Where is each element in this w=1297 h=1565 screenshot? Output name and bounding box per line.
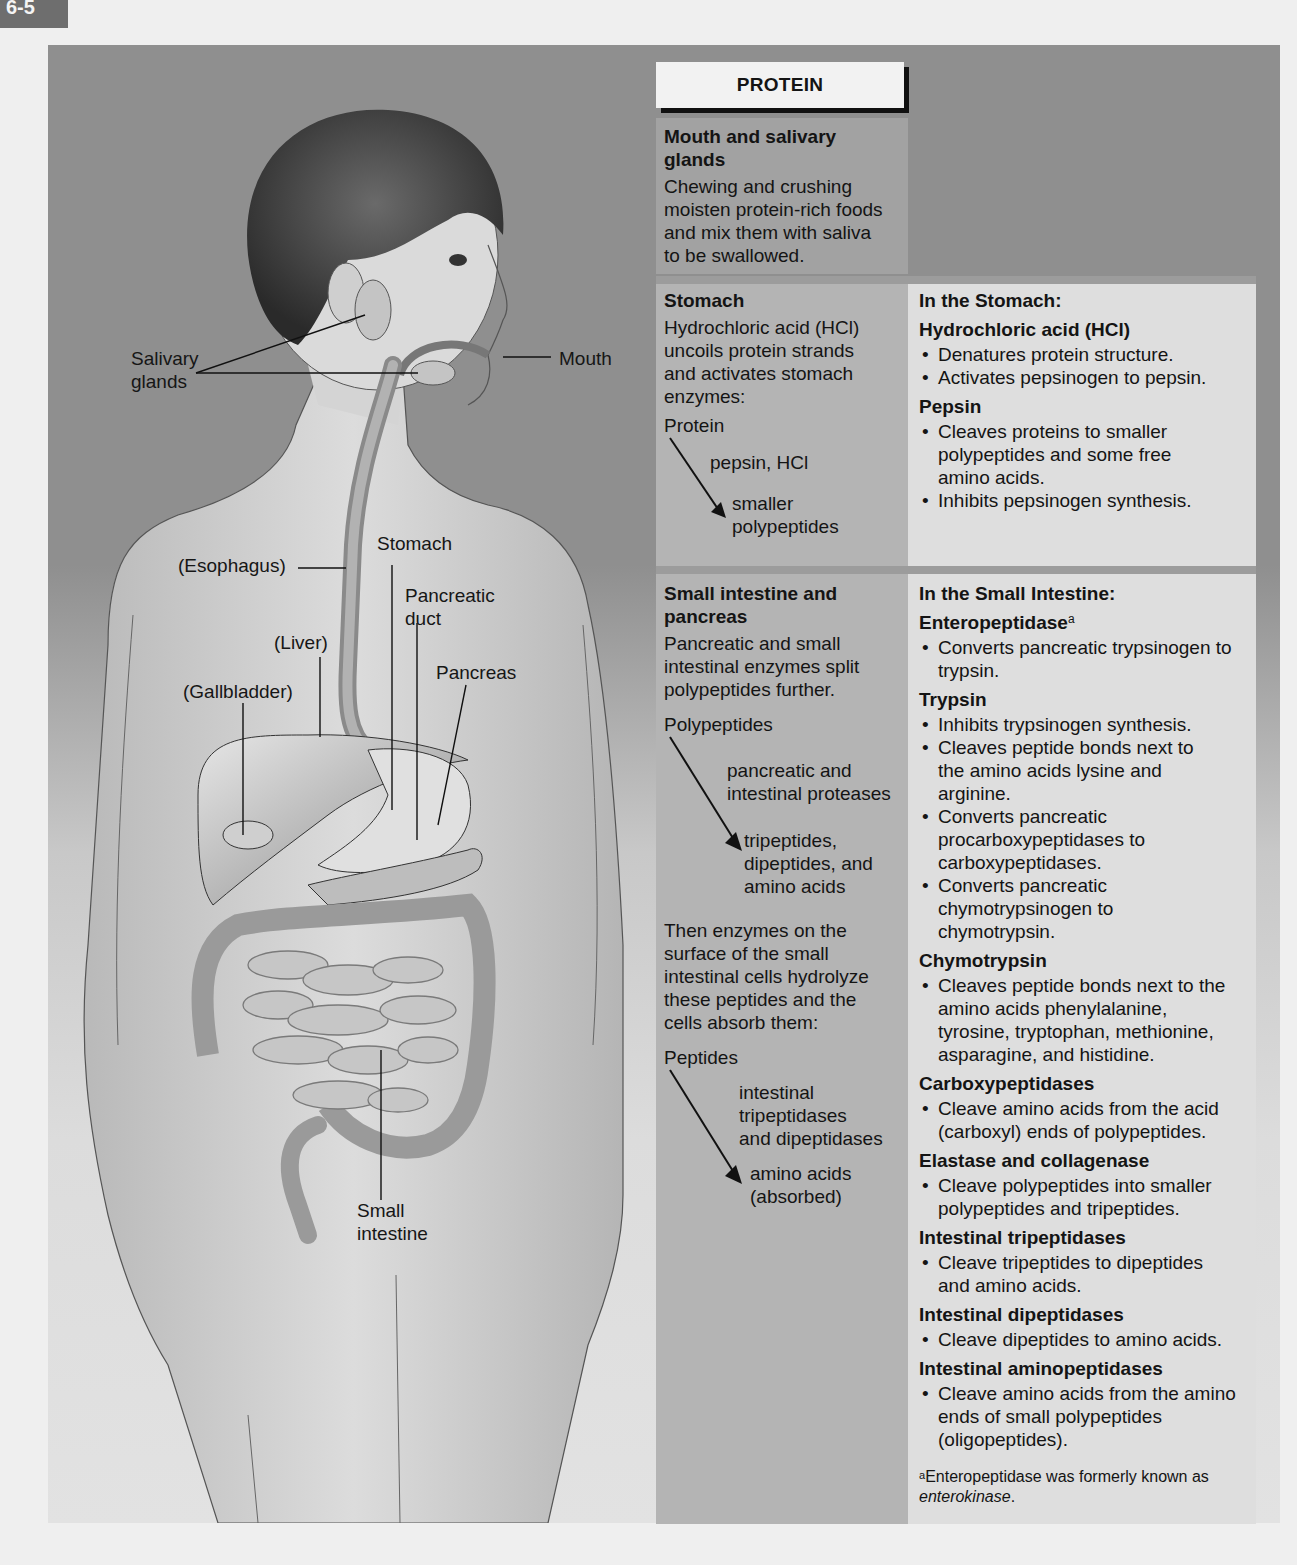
enzyme-action: Activates pepsinogen to pepsin. — [919, 366, 1248, 389]
arrow-icon — [664, 1046, 754, 1246]
label-mouth: Mouth — [559, 347, 612, 370]
enzyme-name: Intestinal aminopeptidases — [919, 1357, 1248, 1380]
enzyme-action: Cleave tripeptides to dipeptides and ami… — [919, 1251, 1239, 1297]
enzyme-enteropeptidase: Enteropeptidasea Converts pancreatic try… — [919, 611, 1248, 682]
footnote-marker: a — [1068, 612, 1075, 626]
title-line: Small intestine and — [664, 582, 900, 605]
gallbladder — [223, 821, 273, 849]
figure-number-tab: 6-5 — [0, 0, 68, 28]
enzyme-name: Intestinal tripeptidases — [919, 1226, 1248, 1249]
enzyme-action: Cleaves peptide bonds next to the amino … — [919, 736, 1219, 805]
flow-product: polypeptides — [732, 515, 900, 538]
cell-mouth: Mouth and salivary glands Chewing and cr… — [656, 118, 908, 274]
flow-product: (absorbed) — [750, 1185, 900, 1208]
arrow-icon — [664, 713, 754, 913]
enzyme-name: Carboxypeptidases — [919, 1072, 1248, 1095]
title-line: Mouth and salivary — [664, 125, 900, 148]
section-title: In the Small Intestine: — [919, 582, 1248, 605]
cell-title: Small intestine and pancreas — [664, 582, 900, 628]
cell-text: Chewing and crushing moisten protein-ric… — [664, 175, 892, 267]
label-pancreatic-duct: Pancreatic duct — [405, 584, 495, 630]
enzyme-intestinal-tripeptidases: Intestinal tripeptidases Cleave tripepti… — [919, 1226, 1248, 1297]
table-header-protein: PROTEIN — [656, 62, 904, 108]
human-digestive-illustration — [48, 45, 658, 1523]
enzyme-chymotrypsin: Chymotrypsin Cleaves peptide bonds next … — [919, 949, 1248, 1066]
label-text: duct — [405, 607, 495, 630]
label-text: intestine — [357, 1222, 428, 1245]
enzyme-elastase-collagenase: Elastase and collagenase Cleave polypept… — [919, 1149, 1248, 1220]
enzyme-action: Converts pancreatic procarboxypeptidases… — [919, 805, 1219, 874]
enzyme-action: Cleave amino acids from the amino ends o… — [919, 1382, 1239, 1451]
label-gallbladder: (Gallbladder) — [183, 680, 293, 703]
cell-title: Mouth and salivary glands — [664, 125, 900, 171]
enzyme-name: Intestinal dipeptidases — [919, 1303, 1248, 1326]
flow-enzyme: and dipeptidases — [739, 1127, 900, 1150]
cell-text: Pancreatic and small intestinal enzymes … — [664, 632, 874, 701]
label-text: Pancreatic — [405, 584, 495, 607]
enzyme-action: Denatures protein structure. — [919, 343, 1248, 366]
enzyme-action: Converts pancreatic chymotrypsinogen to … — [919, 874, 1219, 943]
cell-text: Then enzymes on the surface of the small… — [664, 919, 894, 1034]
enzyme-trypsin: Trypsin Inhibits trypsinogen synthesis. … — [919, 688, 1248, 943]
cell-stomach-description: Stomach Hydrochloric acid (HCl) uncoils … — [656, 284, 908, 566]
label-pancreas: Pancreas — [436, 661, 516, 684]
cell-title: Stomach — [664, 289, 900, 312]
reaction-flow-peptides: Peptides intestinal tripeptidases and di… — [664, 1046, 900, 1246]
flow-product: amino acids — [750, 1162, 900, 1185]
enzyme-action: Cleave dipeptides to amino acids. — [919, 1328, 1248, 1351]
flow-product: smaller — [732, 492, 900, 515]
title-line: glands — [664, 148, 900, 171]
parotid-gland — [355, 280, 391, 340]
enzyme-carboxypeptidases: Carboxypeptidases Cleave amino acids fro… — [919, 1072, 1248, 1143]
flow-enzyme: intestinal — [739, 1081, 900, 1104]
enzyme-name: Elastase and collagenase — [919, 1149, 1248, 1172]
label-stomach: Stomach — [377, 532, 452, 555]
enzyme-name: Enteropeptidasea — [919, 611, 1248, 634]
cell-stomach-enzymes: In the Stomach: Hydrochloric acid (HCl) … — [908, 284, 1256, 566]
enzyme-hcl: Hydrochloric acid (HCl) Denatures protei… — [919, 318, 1248, 389]
footnote-italic: enterokinase — [919, 1488, 1011, 1505]
label-esophagus: (Esophagus) — [178, 554, 286, 577]
label-liver: (Liver) — [274, 631, 328, 654]
header-text: PROTEIN — [737, 74, 824, 96]
enzyme-pepsin: Pepsin Cleaves proteins to smaller polyp… — [919, 395, 1248, 512]
cell-small-intestine-enzymes: In the Small Intestine: Enteropeptidasea… — [908, 574, 1256, 1524]
label-small-intestine: Small intestine — [357, 1199, 428, 1245]
figure-number: 6-5 — [6, 0, 35, 18]
enzyme-action: Converts pancreatic trypsinogen to tryps… — [919, 636, 1239, 682]
enzyme-intestinal-aminopeptidases: Intestinal aminopeptidases Cleave amino … — [919, 1357, 1248, 1451]
enzyme-name: Chymotrypsin — [919, 949, 1248, 972]
enzyme-name: Hydrochloric acid (HCl) — [919, 318, 1248, 341]
enzyme-name: Trypsin — [919, 688, 1248, 711]
flow-product: dipeptides, and — [744, 852, 900, 875]
enzyme-action: Cleave amino acids from the acid (carbox… — [919, 1097, 1244, 1143]
enzyme-action: Inhibits trypsinogen synthesis. — [919, 713, 1219, 736]
enzyme-intestinal-dipeptidases: Intestinal dipeptidases Cleave dipeptide… — [919, 1303, 1248, 1351]
footnote-end: . — [1011, 1488, 1015, 1505]
label-text: glands — [131, 370, 199, 393]
footnote-text: Enteropeptidase was formerly known as — [925, 1468, 1209, 1485]
enzyme-name: Pepsin — [919, 395, 1248, 418]
cell-small-intestine-description: Small intestine and pancreas Pancreatic … — [656, 574, 908, 1524]
label-text: Salivary — [131, 347, 199, 370]
flow-product: amino acids — [744, 875, 900, 898]
enzyme-action: Cleaves proteins to smaller polypeptides… — [919, 420, 1209, 489]
row-separator — [656, 276, 1256, 284]
label-text: Small — [357, 1199, 428, 1222]
enzyme-action: Cleave polypeptides into smaller polypep… — [919, 1174, 1239, 1220]
footnote: aEnteropeptidase was formerly known as e… — [919, 1467, 1219, 1507]
flow-enzyme: tripeptidases — [739, 1104, 900, 1127]
reaction-flow-polypeptides: Polypeptides pancreatic and intestinal p… — [664, 713, 900, 913]
enzyme-action: Cleaves peptide bonds next to the amino … — [919, 974, 1234, 1066]
label-salivary-glands: Salivary glands — [131, 347, 199, 393]
flow-product: tripeptides, — [744, 829, 900, 852]
title-line: pancreas — [664, 605, 900, 628]
footnote-marker: a — [919, 1469, 925, 1481]
enzyme-action: Inhibits pepsinogen synthesis. — [919, 489, 1209, 512]
cell-text: Hydrochloric acid (HCl) uncoils protein … — [664, 316, 889, 408]
row-separator — [656, 566, 1256, 574]
arrow-icon — [664, 414, 744, 544]
section-title: In the Stomach: — [919, 289, 1248, 312]
enzyme-name-text: Enteropeptidase — [919, 612, 1068, 633]
reaction-flow: Protein pepsin, HCl smaller polypeptides — [664, 414, 900, 544]
